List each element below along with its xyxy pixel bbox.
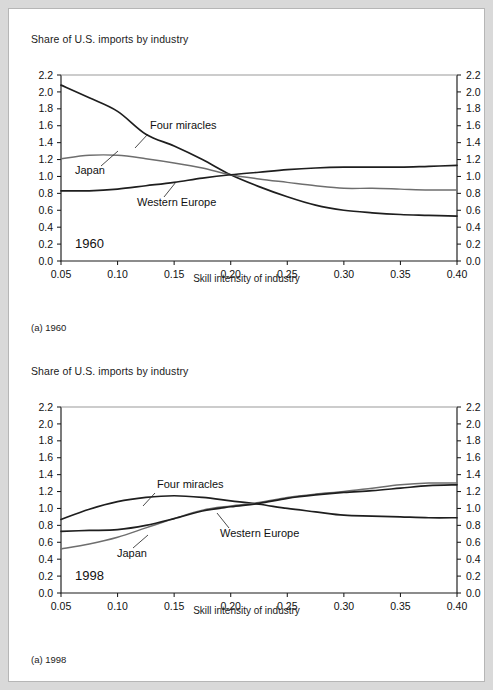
y-tick-label-right: 0.0: [466, 255, 481, 267]
y-axis-right-1960: 0.00.20.40.60.81.01.21.41.61.82.02.2: [457, 69, 481, 267]
leader-line-japan: [101, 151, 118, 166]
y-tick-label-right: 1.8: [466, 102, 481, 114]
leader-line-four-miracles: [135, 134, 148, 148]
y-tick-label-right: 0.4: [466, 221, 481, 233]
chart-panel-1960: Share of U.S. imports by industry 0.00.2…: [9, 15, 484, 351]
y-tick-label-left: 1.4: [38, 468, 53, 480]
y-tick-label-left: 0.8: [38, 519, 53, 531]
series-curves-1998: [61, 483, 457, 549]
year-annotation-1998: 1998: [75, 568, 104, 583]
chart-svg-1998: 0.00.20.40.60.81.01.21.41.61.82.02.2 0.0…: [9, 385, 493, 635]
chart-svg-1960: 0.00.20.40.60.81.01.21.41.61.82.02.2 0.0…: [9, 53, 493, 303]
series-line-four-miracles: [61, 85, 457, 216]
y-tick-label-left: 2.2: [38, 401, 53, 413]
y-tick-label-right: 0.8: [466, 519, 481, 531]
y-tick-label-left: 1.6: [38, 119, 53, 131]
y-tick-label-right: 0.2: [466, 238, 481, 250]
y-tick-label-left: 1.2: [38, 485, 53, 497]
annotation-four-miracles-1960: Four miracles: [135, 119, 217, 148]
y-tick-label-left: 0.0: [38, 587, 53, 599]
y-tick-label-right: 1.8: [466, 434, 481, 446]
y-tick-label-right: 2.2: [466, 401, 481, 413]
y-tick-label-left: 2.0: [38, 418, 53, 430]
series-curves-1960: [61, 85, 457, 216]
y-tick-label-right: 1.0: [466, 502, 481, 514]
y-tick-label-left: 2.2: [38, 69, 53, 81]
plot-area-1960: 0.00.20.40.60.81.01.21.41.61.82.02.2 0.0…: [9, 53, 484, 303]
leader-line-four-miracles: [143, 493, 155, 506]
y-tick-label-left: 1.8: [38, 434, 53, 446]
y-tick-label-right: 1.6: [466, 119, 481, 131]
series-line-four-miracles: [61, 496, 457, 520]
x-axis-label-1960: Skill intensity of industry: [9, 273, 484, 284]
y-tick-label-right: 0.0: [466, 587, 481, 599]
y-tick-label-left: 0.8: [38, 187, 53, 199]
axis-title-bottom: Share of U.S. imports by industry: [31, 365, 188, 377]
y-tick-label-right: 0.2: [466, 570, 481, 582]
y-tick-label-left: 1.0: [38, 170, 53, 182]
series-label-four-miracles: Four miracles: [150, 119, 217, 131]
annotation-four-miracles-1998: Four miracles: [143, 478, 224, 506]
y-tick-label-left: 0.4: [38, 553, 53, 565]
y-tick-label-left: 2.0: [38, 86, 53, 98]
y-axis-right-1998: 0.00.20.40.60.81.01.21.41.61.82.02.2: [457, 401, 481, 599]
y-tick-label-right: 0.6: [466, 536, 481, 548]
panel-caption-1960: (a) 1960: [31, 322, 66, 333]
y-tick-label-left: 0.6: [38, 536, 53, 548]
chart-panel-1998: Share of U.S. imports by industry 0.00.2…: [9, 347, 484, 683]
figure-root: Share of U.S. imports by industry 0.00.2…: [0, 0, 493, 690]
y-tick-label-right: 2.2: [466, 69, 481, 81]
y-tick-label-right: 2.0: [466, 86, 481, 98]
y-axis-left-1960: 0.00.20.40.60.81.01.21.41.61.82.02.2: [38, 69, 61, 267]
y-tick-label-right: 2.0: [466, 418, 481, 430]
series-line-western-europe: [61, 485, 457, 532]
annotation-western-europe-1998: Western Europe: [217, 513, 299, 539]
y-tick-label-right: 1.0: [466, 170, 481, 182]
y-tick-label-right: 0.8: [466, 187, 481, 199]
plot-frame-1998: [61, 407, 457, 593]
x-axis-label-1998: Skill intensity of industry: [9, 605, 484, 616]
annotation-japan-1998: Japan: [117, 535, 148, 559]
y-tick-label-left: 1.6: [38, 451, 53, 463]
y-tick-label-left: 1.8: [38, 102, 53, 114]
series-label-western-europe: Western Europe: [220, 527, 299, 539]
figure-frame: Share of U.S. imports by industry 0.00.2…: [8, 8, 485, 682]
y-tick-label-left: 0.2: [38, 238, 53, 250]
axis-title-top: Share of U.S. imports by industry: [31, 33, 188, 45]
year-annotation-1960: 1960: [75, 236, 104, 251]
series-label-western-europe: Western Europe: [137, 196, 216, 208]
y-tick-label-left: 0.2: [38, 570, 53, 582]
y-tick-label-left: 1.2: [38, 153, 53, 165]
y-tick-label-right: 1.2: [466, 485, 481, 497]
y-axis-left-1998: 0.00.20.40.60.81.01.21.41.61.82.02.2: [38, 401, 61, 599]
y-tick-label-right: 1.4: [466, 468, 481, 480]
y-tick-label-left: 1.0: [38, 502, 53, 514]
series-label-japan: Japan: [75, 164, 105, 176]
panel-caption-1998: (a) 1998: [31, 654, 66, 665]
leader-line-western-europe: [217, 513, 229, 528]
series-label-japan: Japan: [117, 547, 147, 559]
y-tick-label-left: 0.4: [38, 221, 53, 233]
plot-area-1998: 0.00.20.40.60.81.01.21.41.61.82.02.2 0.0…: [9, 385, 484, 635]
series-label-four-miracles: Four miracles: [157, 478, 224, 490]
y-tick-label-left: 0.0: [38, 255, 53, 267]
y-tick-label-right: 1.2: [466, 153, 481, 165]
y-tick-label-right: 0.6: [466, 204, 481, 216]
y-tick-label-left: 0.6: [38, 204, 53, 216]
y-tick-label-right: 1.6: [466, 451, 481, 463]
y-tick-label-left: 1.4: [38, 136, 53, 148]
y-tick-label-right: 1.4: [466, 136, 481, 148]
y-tick-label-right: 0.4: [466, 553, 481, 565]
